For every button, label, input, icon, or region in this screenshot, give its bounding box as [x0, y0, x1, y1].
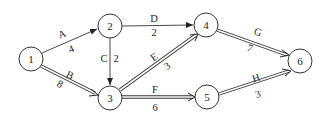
- node-2: 2: [98, 14, 122, 38]
- edge-a-duration: 4: [67, 43, 77, 55]
- edge-h: H 3: [219, 69, 291, 100]
- node-5: 5: [195, 85, 219, 109]
- edge-f-duration: 6: [152, 102, 157, 113]
- edge-d-duration: 2: [151, 27, 156, 38]
- node-5-label: 5: [204, 91, 210, 103]
- network-diagram: A 4 B 8 C 2 D 2 E 3 F 6: [0, 0, 330, 121]
- node-1-label: 1: [28, 53, 34, 65]
- edge-d-activity: D: [150, 13, 158, 24]
- edge-b: B 8: [41, 66, 98, 96]
- edge-f-activity: F: [152, 84, 158, 95]
- edge-c-activity: C: [100, 53, 107, 64]
- node-6-label: 6: [297, 55, 303, 67]
- edge-g-duration: 7: [246, 42, 255, 54]
- edge-d: D 2: [122, 13, 193, 38]
- edge-g-activity: G: [253, 26, 264, 39]
- node-4: 4: [194, 13, 218, 37]
- edge-c: C 2: [100, 38, 118, 85]
- edge-a-activity: A: [56, 27, 68, 40]
- node-6: 6: [288, 49, 312, 73]
- edge-e-duration: 3: [162, 60, 173, 72]
- edge-e: E 3: [120, 34, 198, 90]
- node-3: 3: [98, 86, 122, 110]
- edge-h-duration: 3: [254, 88, 262, 100]
- node-3-label: 3: [107, 92, 113, 104]
- edge-b-duration: 8: [55, 78, 64, 90]
- edge-f: F 6: [122, 84, 195, 113]
- node-2-label: 2: [107, 20, 113, 32]
- edge-g: G 7: [217, 26, 289, 57]
- edge-a: A 4: [42, 27, 97, 55]
- node-4-label: 4: [203, 19, 209, 31]
- edge-c-duration: 2: [113, 53, 118, 64]
- node-1: 1: [19, 47, 43, 71]
